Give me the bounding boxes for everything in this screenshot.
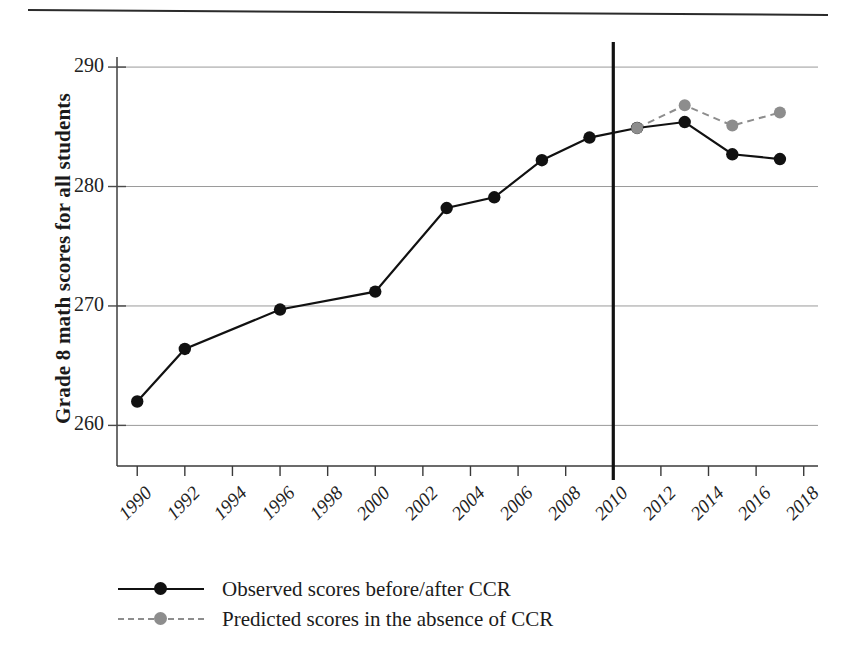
legend-label-predicted: Predicted scores in the absence of CCR [204,607,553,632]
data-point-observed-2003 [440,202,452,214]
legend-key-predicted [118,609,204,629]
legend-marker-gray-icon [154,612,167,625]
legend-item-predicted: Predicted scores in the absence of CCR [118,604,638,634]
legend-label-observed: Observed scores before/after CCR [204,577,511,602]
data-point-observed-1992 [179,343,191,355]
data-point-predicted-2011 [631,122,643,134]
data-point-observed-1996 [274,303,286,315]
data-point-predicted-2017 [774,106,786,118]
chart-legend: Observed scores before/after CCR Predict… [118,574,638,634]
data-point-observed-2015 [726,148,738,160]
data-point-predicted-2015 [726,120,738,132]
data-point-predicted-2013 [679,99,691,111]
data-point-observed-2000 [369,285,381,297]
data-point-observed-2013 [679,116,691,128]
legend-marker-black-icon [154,582,167,595]
line-chart: Grade 8 math scores for all students 290… [0,0,845,660]
legend-item-observed: Observed scores before/after CCR [118,574,638,604]
plot-canvas [0,0,845,660]
data-point-observed-1990 [131,395,143,407]
data-point-observed-2009 [583,131,595,143]
data-point-observed-2017 [774,153,786,165]
data-point-observed-2005 [488,191,500,203]
data-point-observed-2007 [536,154,548,166]
series-line-observed [137,122,780,401]
figure-page: Grade 8 math scores for all students 290… [0,0,845,660]
legend-key-observed [118,579,204,599]
